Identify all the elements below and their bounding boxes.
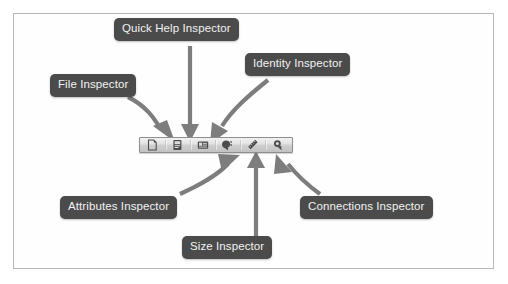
inspector-button-file[interactable] xyxy=(140,138,165,152)
identity-card-icon xyxy=(197,139,209,151)
inspector-button-attributes[interactable] xyxy=(215,138,240,152)
callout-identity-inspector: Identity Inspector xyxy=(245,53,350,76)
ruler-icon xyxy=(247,139,259,151)
callout-attributes-inspector: Attributes Inspector xyxy=(60,196,177,219)
connections-arrow-icon xyxy=(272,139,284,151)
question-book-icon xyxy=(172,139,183,151)
attributes-slider-icon xyxy=(221,139,234,151)
inspector-callout-figure: File Inspector Quick Help Inspector Iden… xyxy=(0,0,508,284)
callout-file-inspector: File Inspector xyxy=(50,74,136,97)
inspector-button-quick-help[interactable] xyxy=(165,138,190,152)
callout-quick-help-inspector: Quick Help Inspector xyxy=(114,18,239,41)
document-icon xyxy=(147,139,158,151)
inspector-button-identity[interactable] xyxy=(190,138,215,152)
inspector-button-connections[interactable] xyxy=(265,138,290,152)
inspector-button-size[interactable] xyxy=(240,138,265,152)
inspector-selector-bar[interactable] xyxy=(139,137,293,153)
callout-size-inspector: Size Inspector xyxy=(182,236,272,259)
callout-connections-inspector: Connections Inspector xyxy=(300,196,433,219)
